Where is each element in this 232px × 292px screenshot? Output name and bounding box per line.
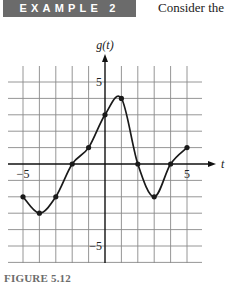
t-axis-arrow-icon: [208, 161, 216, 167]
x-axis-label: t: [221, 157, 225, 171]
data-point: [152, 194, 157, 199]
data-point: [20, 194, 25, 199]
data-point: [102, 112, 107, 117]
data-point: [37, 211, 42, 216]
figure-caption: FIGURE 5.12: [4, 272, 71, 284]
data-point: [184, 145, 189, 150]
y-tick-label: 5: [96, 75, 102, 89]
g-axis-arrow-icon: [102, 54, 108, 62]
data-point: [70, 161, 75, 166]
data-point: [168, 161, 173, 166]
x-tick-label: −5: [17, 167, 30, 181]
y-axis-label: g(t): [96, 38, 113, 52]
x-tick-label: 5: [184, 167, 190, 181]
data-point: [86, 145, 91, 150]
data-point: [119, 96, 124, 101]
function-graph: −555−5 g(t) t: [0, 0, 232, 292]
y-tick-label: −5: [89, 239, 102, 253]
data-point: [53, 194, 58, 199]
data-point: [135, 161, 140, 166]
